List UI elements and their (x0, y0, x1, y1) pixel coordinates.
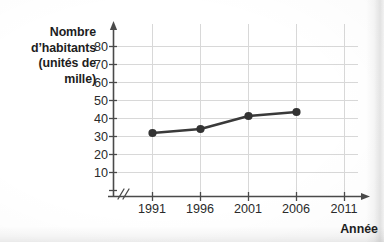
data-point-1996[interactable] (196, 125, 204, 133)
y-axis (110, 21, 117, 196)
x-tick-label-2006: 2006 (276, 203, 316, 215)
x-tick-label-1991: 1991 (132, 203, 172, 215)
axis-break-icon (118, 189, 129, 199)
arrow-right-icon (361, 193, 370, 200)
x-tick-label-2011: 2011 (324, 203, 364, 215)
vertical-gridlines (153, 24, 345, 196)
x-axis-title: Année (340, 222, 378, 236)
x-axis (108, 193, 370, 200)
horizontal-gridlines (113, 47, 358, 173)
x-tick-label-2001: 2001 (228, 203, 268, 215)
data-point-2001[interactable] (244, 112, 252, 120)
data-point-1991[interactable] (148, 129, 156, 137)
arrow-up-icon (110, 21, 117, 30)
data-line-series-1 (153, 112, 297, 133)
x-tick-label-1996: 1996 (180, 203, 220, 215)
chart-figure: Nombre d’habitants (unités de mille) 80 … (0, 0, 384, 242)
data-point-2006[interactable] (292, 108, 300, 116)
